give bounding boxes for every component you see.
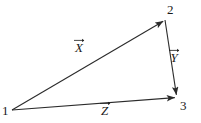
vector-label-y: Y: [168, 48, 180, 64]
vertex-label-3: 3: [180, 99, 187, 112]
vector-arrow-accent-icon: [168, 48, 180, 52]
vector-x-arrow: [12, 21, 163, 110]
vector-label-z: Z: [98, 101, 111, 117]
vector-label-z-glyph: Z: [98, 104, 111, 117]
vector-label-x-glyph: X: [72, 41, 86, 54]
vector-arrow-accent-icon: [98, 101, 111, 105]
vector-arrow-accent-icon: [72, 38, 86, 42]
vertex-label-2: 2: [167, 3, 174, 16]
vector-triangle-figure: 1 2 3 X Y Z: [0, 0, 201, 123]
vector-z-arrow: [12, 98, 175, 110]
vertex-label-1: 1: [2, 104, 9, 117]
vector-label-x: X: [72, 38, 86, 54]
vector-label-y-glyph: Y: [168, 51, 180, 64]
